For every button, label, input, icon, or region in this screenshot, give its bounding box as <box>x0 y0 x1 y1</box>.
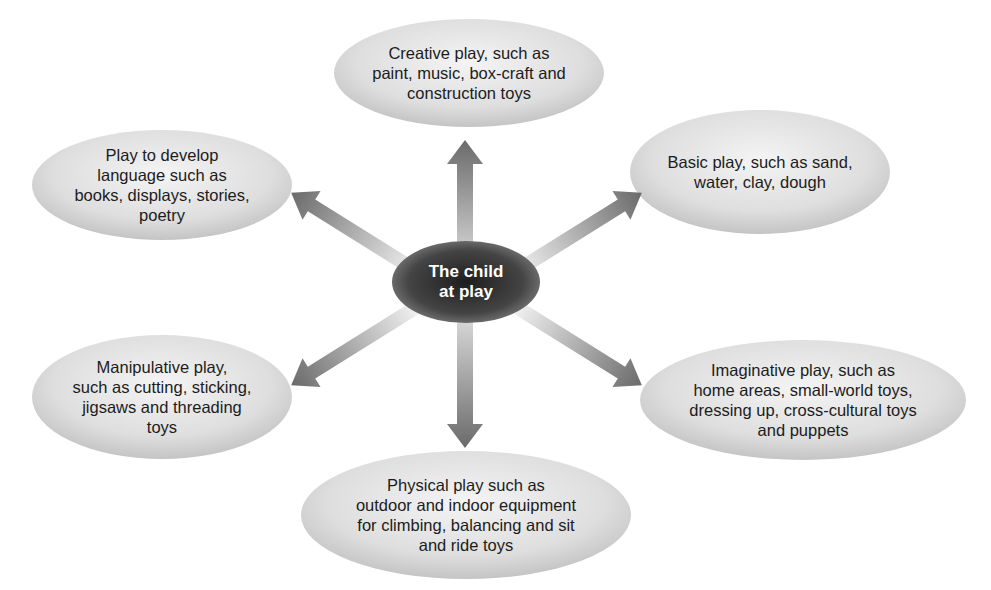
node-creative-label: Creative play, such as paint, music, box… <box>340 22 598 124</box>
center-node-label: The child at play <box>392 242 540 322</box>
node-physical-label: Physical play such as outdoor and indoor… <box>308 453 624 577</box>
node-basic-label: Basic play, such as sand, water, clay, d… <box>640 112 880 232</box>
node-manipulative-label: Manipulative play, such as cutting, stic… <box>42 337 282 457</box>
node-imaginative-label: Imaginative play, such as home areas, sm… <box>650 342 956 458</box>
node-language-label: Play to develop language such as books, … <box>42 132 282 238</box>
